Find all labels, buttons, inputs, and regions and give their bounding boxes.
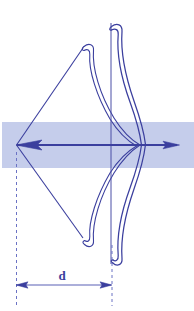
bow-draw-diagram: d: [0, 0, 194, 311]
lower-limb-reference-tip-hook: [83, 241, 85, 245]
diagram-canvas: d: [0, 0, 194, 311]
dimension-arrowhead-left: [16, 282, 28, 288]
distance-label-d: d: [58, 268, 66, 283]
dimension-arrowhead-right: [100, 282, 112, 288]
